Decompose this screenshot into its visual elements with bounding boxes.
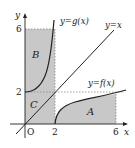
y-axis-arrow-icon xyxy=(23,13,27,18)
region-a-label: A xyxy=(86,106,94,117)
region-c-label: C xyxy=(30,99,38,110)
curve-g-label: y=g(x) xyxy=(59,16,89,26)
curve-f-label: y=f(x) xyxy=(87,78,115,88)
area-diagram: y x O 2 6 6 2 y=g(x) y=x y=f(x) B C A xyxy=(0,0,135,148)
region-b-label: B xyxy=(31,49,39,60)
x-tick-2: 2 xyxy=(52,127,58,137)
origin-label: O xyxy=(27,127,34,137)
x-axis-label: x xyxy=(124,127,129,137)
y-tick-2: 2 xyxy=(16,87,22,97)
y-tick-6: 6 xyxy=(16,24,22,34)
region-a-shade xyxy=(55,94,116,124)
x-axis-arrow-icon xyxy=(123,122,128,126)
y-axis-label: y xyxy=(14,10,21,20)
x-tick-6: 6 xyxy=(113,127,119,137)
curve-identity-label: y=x xyxy=(104,20,122,30)
